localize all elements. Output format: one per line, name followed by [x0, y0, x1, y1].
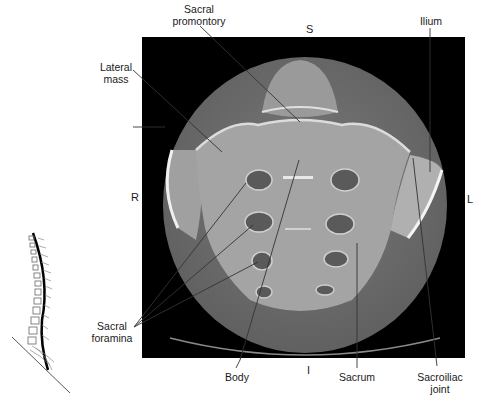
ct-slice — [163, 57, 447, 355]
inferior-marker: I — [307, 364, 310, 376]
label-sacrum: Sacrum — [337, 371, 377, 383]
superior-marker: S — [306, 23, 313, 35]
label-body: Body — [222, 371, 252, 383]
label-sacral-foramina: Sacral foramina — [90, 320, 134, 344]
label-ilium: Ilium — [417, 15, 445, 27]
left-marker: L — [467, 193, 473, 205]
label-sacroiliac-joint: Sacroiliac joint — [412, 371, 468, 395]
label-sacral-promontory: Sacral promontory — [168, 3, 230, 27]
right-marker: R — [131, 191, 139, 203]
label-lateral-mass: Lateral mass — [98, 61, 134, 85]
spine-orientation-inset — [12, 233, 70, 393]
figure-canvas — [0, 0, 477, 400]
